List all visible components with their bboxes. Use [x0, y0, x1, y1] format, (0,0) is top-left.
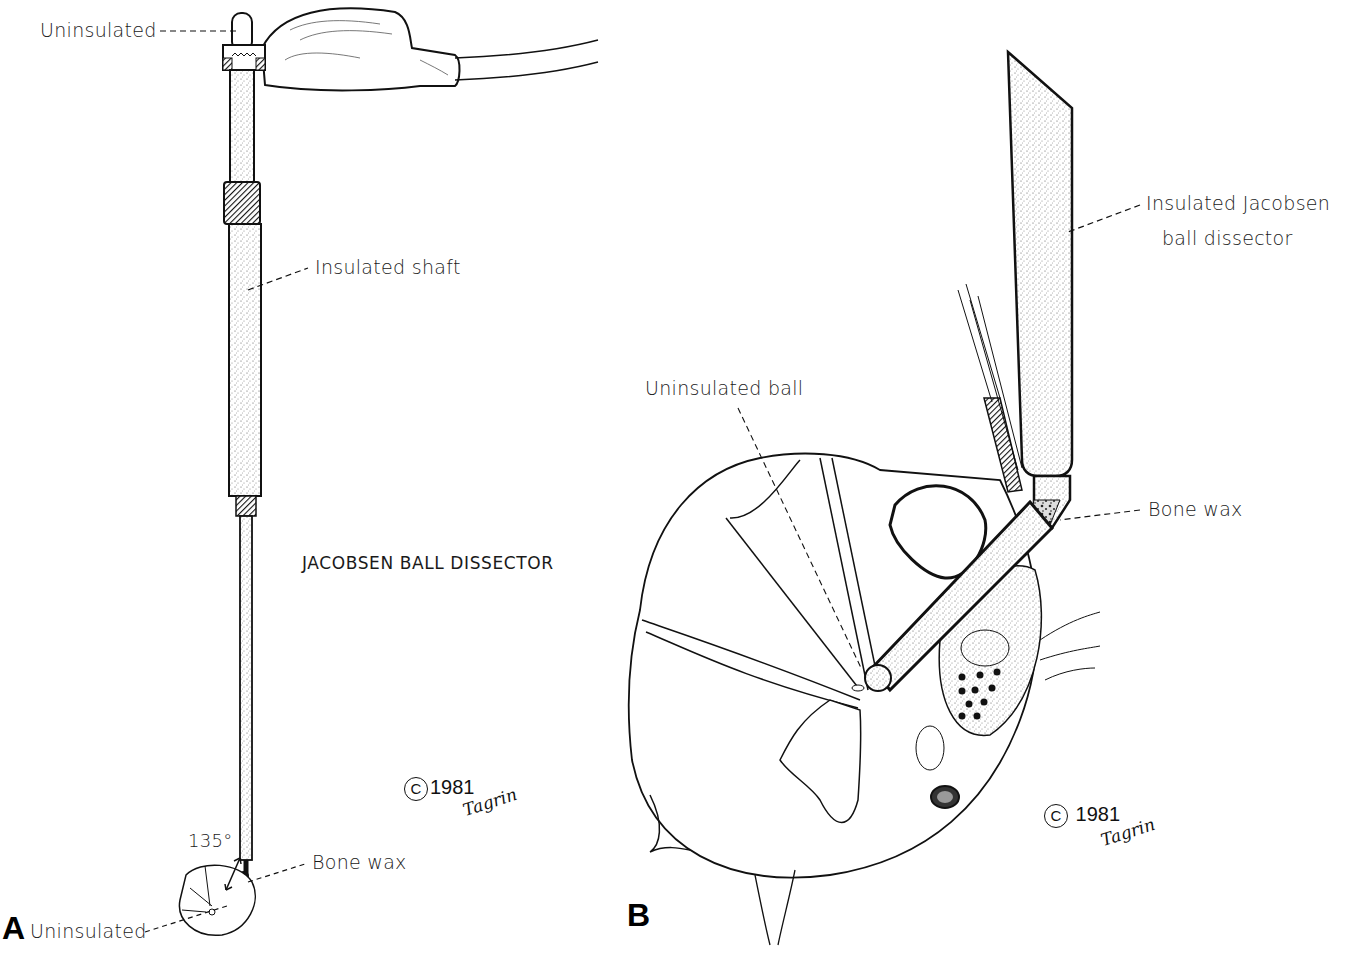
copyright-a: C1981 [404, 776, 475, 801]
panel-a-title: JACOBSEN BALL DISSECTOR [302, 553, 554, 573]
label-uninsulated-bottom: Uninsulated [30, 920, 147, 942]
label-insulated-shaft: Insulated shaft [315, 256, 461, 278]
panel-a-dissector-drawing [145, 8, 598, 935]
copyright-year: 1981 [1076, 803, 1121, 825]
label-insulated-dissector-line1: Insulated Jacobsen [1146, 192, 1330, 214]
insulated-dissector-shaft [1008, 52, 1072, 476]
copyright-icon: C [1044, 804, 1068, 828]
label-uninsulated-ball: Uninsulated ball [645, 377, 803, 399]
label-bone-wax-b: Bone wax [1148, 498, 1243, 520]
copyright-year: 1981 [430, 776, 475, 798]
label-bone-wax-a: Bone wax [312, 851, 407, 873]
panel-letter-b: B [627, 897, 650, 934]
label-insulated-dissector-line2: ball dissector [1162, 227, 1293, 249]
panel-letter-a: A [2, 910, 25, 947]
handle-grip [262, 8, 460, 90]
label-uninsulated-top: Uninsulated [40, 19, 157, 41]
label-angle-135: 135° [188, 830, 233, 851]
copyright-b: C 1981 [1044, 803, 1120, 828]
copyright-icon: C [404, 777, 428, 801]
uninsulated-ball [865, 665, 891, 691]
